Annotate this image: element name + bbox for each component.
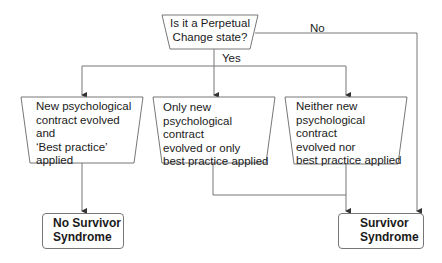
survivor-syndrome-label: Survivor Syndrome bbox=[360, 216, 419, 244]
outcome-text-line: Survivor bbox=[360, 216, 419, 230]
yes-label: Yes bbox=[222, 52, 241, 64]
process-text-line: contract evolved bbox=[36, 114, 136, 128]
process-box-3: Neither new psychological contract evolv… bbox=[296, 100, 408, 168]
no-survivor-syndrome-label: No Survivor Syndrome bbox=[53, 216, 121, 244]
outcome-text-line: Syndrome bbox=[360, 230, 419, 244]
process-text-line: New psychological bbox=[36, 100, 136, 114]
decision-text-line: Change state? bbox=[164, 31, 256, 45]
no-label: No bbox=[310, 22, 325, 34]
decision-text-line: Is it a Perpetual bbox=[164, 17, 256, 31]
process-text-line: ‘Best practice’ bbox=[36, 141, 136, 155]
process-text-line: psychological contract bbox=[296, 114, 408, 141]
outcome-text-line: Syndrome bbox=[53, 230, 121, 244]
process-box-2: Only new psychological contract evolved … bbox=[163, 101, 275, 169]
process-box-1: New psychological contract evolved and ‘… bbox=[36, 100, 136, 168]
process-text-line: evolved nor bbox=[296, 141, 408, 155]
process-text-line: best practice applied bbox=[296, 154, 408, 168]
process-text-line: Only new bbox=[163, 101, 275, 115]
decision-question: Is it a Perpetual Change state? bbox=[164, 17, 256, 44]
process-text-line: evolved or only bbox=[163, 142, 275, 156]
process-text-line: and bbox=[36, 127, 136, 141]
outcome-text-line: No Survivor bbox=[53, 216, 121, 230]
process-text-line: Neither new bbox=[296, 100, 408, 114]
process-text-line: applied bbox=[36, 154, 136, 168]
process-text-line: best practice applied bbox=[163, 155, 275, 169]
process-text-line: psychological contract bbox=[163, 115, 275, 142]
